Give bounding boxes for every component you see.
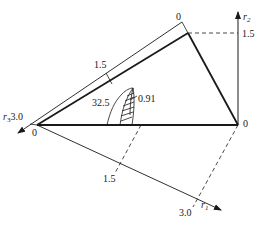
triangle-left-edge xyxy=(37,33,188,125)
r3-axis xyxy=(18,22,182,133)
r2-tick-1-5: 1.5 xyxy=(242,29,255,39)
r1-tick-3-0: 3.0 xyxy=(179,208,192,218)
r1-axis xyxy=(37,125,221,210)
r1-subscript: 1 xyxy=(205,204,209,212)
r3-zero-label: 0 xyxy=(176,12,181,22)
left-vertex-zero: 0 xyxy=(32,128,37,138)
r3-end-tick xyxy=(30,124,37,125)
r1-dashed-projection-mid xyxy=(115,125,141,173)
r2-axis-label: r2 xyxy=(243,12,250,25)
r1-dashed-projection-end xyxy=(193,125,238,207)
hatched-region xyxy=(107,88,137,125)
diagram-canvas xyxy=(0,0,264,235)
triangle-right-edge xyxy=(188,33,238,125)
r3-tick-3-0: 3.0 xyxy=(10,111,23,122)
r2-subscript: 2 xyxy=(247,16,251,24)
right-vertex-zero: 0 xyxy=(243,119,248,129)
r1-tick-1-5: 1.5 xyxy=(103,174,116,184)
angle-value-label: 32.5 xyxy=(92,98,110,108)
triangle xyxy=(37,33,238,125)
ratio-value-label: 0.91 xyxy=(138,94,156,104)
r3-top-tick xyxy=(182,22,188,33)
r3-axis-label: r33.0 xyxy=(3,112,23,125)
r3-tick-1-5: 1.5 xyxy=(94,60,107,70)
r1-axis-label: r1 xyxy=(201,200,208,213)
